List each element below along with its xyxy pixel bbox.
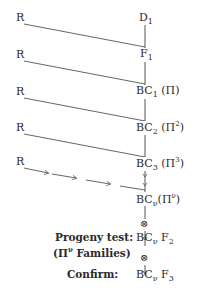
recurrent-parent-label: R [16, 86, 24, 97]
confirm-label: Confirm: [67, 269, 118, 280]
backcross-breeding-diagram: R R R R R D1 F1 BC1 (Π) BC2 (Π2) BC3 (Π3… [0, 0, 205, 292]
repeat-arrow-2 [52, 174, 76, 178]
progeny-test-label: Progeny test: [55, 232, 133, 243]
cross-line-2 [24, 61, 145, 84]
bc1-label: BC1 (Π) [136, 85, 180, 99]
repeat-arrow-3 [86, 180, 110, 184]
bc3-label: BC3 (Π3) [136, 157, 184, 172]
donor-d1-label: D1 [139, 12, 153, 26]
cross-line-3 [24, 98, 145, 121]
cross-line-1 [24, 24, 145, 47]
f1-label: F1 [140, 48, 153, 62]
self-cross-icon: ⊗ [140, 219, 148, 229]
bc2-label: BC2 (Π2) [136, 121, 184, 136]
progeny-families-label: (Πν Families) [53, 246, 131, 259]
self-cross-icon: ⊗ [140, 253, 148, 263]
bcv-label: BCν(Πν) [136, 193, 180, 208]
recurrent-parent-label: R [16, 156, 24, 167]
recurrent-parent-label: R [16, 122, 24, 133]
recurrent-parent-label: R [16, 49, 24, 60]
repeat-arrow-4 [120, 186, 145, 190]
repeat-arrow-1 [24, 168, 48, 173]
cross-line-4 [24, 134, 145, 157]
recurrent-parent-label: R [16, 12, 24, 23]
bcv-f3-label: BCν F3 [136, 269, 174, 283]
bcv-f2-label: BCν F2 [136, 232, 174, 246]
